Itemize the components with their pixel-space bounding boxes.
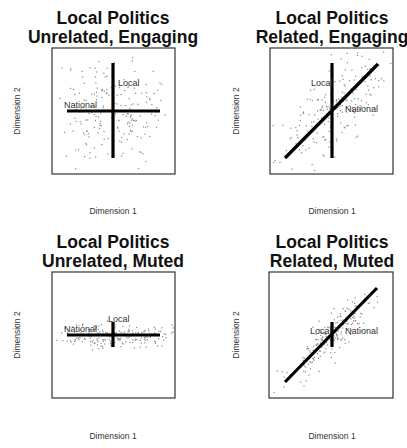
panel-title-line: Related, Engaging xyxy=(256,27,407,47)
panel-title-line: Related, Muted xyxy=(270,251,394,271)
line-label-local: Local xyxy=(118,78,140,88)
panel-title-line: Local Politics xyxy=(57,232,170,252)
x-axis-label: Dimension 1 xyxy=(89,431,137,441)
line-label-national: National xyxy=(345,326,378,336)
line-label-local: Local xyxy=(108,314,130,324)
x-axis-label: Dimension 1 xyxy=(89,206,137,216)
panel-1: Local PoliticsUnrelated, EngagingLocalNa… xyxy=(12,8,198,216)
x-axis-label: Dimension 1 xyxy=(308,431,356,441)
line-label-national: National xyxy=(64,324,97,334)
x-axis-label: Dimension 1 xyxy=(308,206,356,216)
panel-3: Local PoliticsUnrelated, MutedLocalNatio… xyxy=(12,232,184,441)
panel-2: Local PoliticsRelated, EngagingLocalNati… xyxy=(231,8,407,216)
line-label-national: National xyxy=(64,100,97,110)
y-axis-label: Dimension 2 xyxy=(12,311,22,359)
line-label-local: Local xyxy=(311,78,333,88)
y-axis-label: Dimension 2 xyxy=(231,87,241,135)
line-label-national: National xyxy=(345,104,378,114)
line-label-local: Local xyxy=(310,326,332,336)
panel-title-line: Local Politics xyxy=(276,232,389,252)
panel-title-line: Unrelated, Engaging xyxy=(28,27,198,47)
panel-title-line: Local Politics xyxy=(276,8,389,28)
panel-4: Local PoliticsRelated, MutedLocalNationa… xyxy=(231,232,394,441)
panel-title-line: Local Politics xyxy=(57,8,170,28)
figure-canvas: Local PoliticsUnrelated, EngagingLocalNa… xyxy=(0,0,407,448)
y-axis-label: Dimension 2 xyxy=(231,311,241,359)
panel-title-line: Unrelated, Muted xyxy=(42,251,184,271)
y-axis-label: Dimension 2 xyxy=(12,87,22,135)
